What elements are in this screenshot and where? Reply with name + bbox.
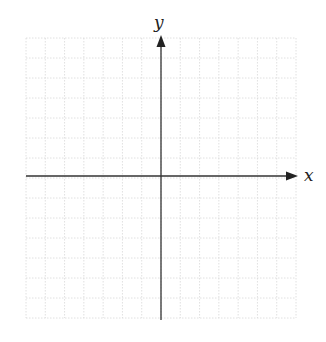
x-axis-label: x: [304, 165, 314, 185]
y-axis-arrow-icon: [157, 35, 166, 47]
y-axis-label: y: [153, 12, 164, 32]
coordinate-plane: x y: [0, 0, 326, 342]
